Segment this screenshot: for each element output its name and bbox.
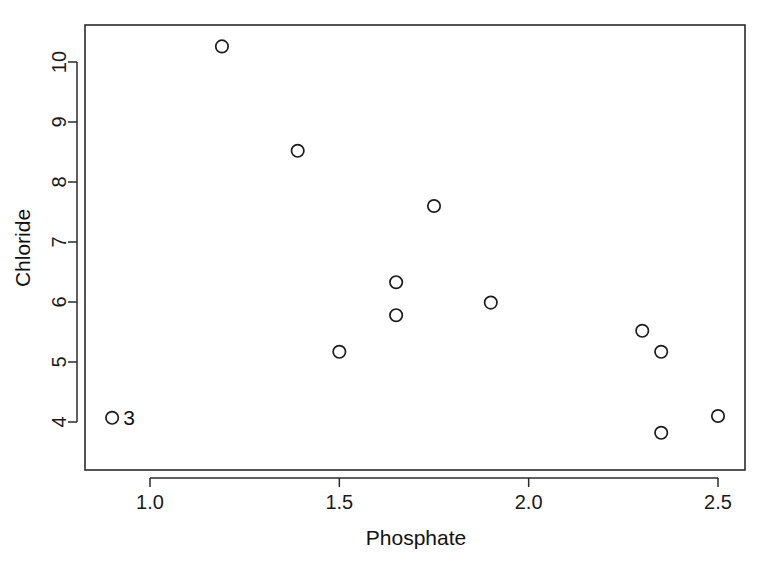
x-axis-title: Phosphate xyxy=(366,526,466,549)
figure-background xyxy=(0,0,767,575)
y-axis-title: Chloride xyxy=(11,209,34,287)
x-tick-label: 1.5 xyxy=(325,491,353,513)
scatter-plot-figure: 45678910 1.01.52.02.5 3 Phosphate Chlori… xyxy=(0,0,767,575)
y-tick-label: 9 xyxy=(48,116,70,127)
y-tick-label: 4 xyxy=(48,416,70,427)
plot-canvas: 45678910 1.01.52.02.5 3 Phosphate Chlori… xyxy=(0,0,767,575)
y-tick-label: 7 xyxy=(48,236,70,247)
x-tick-label: 2.0 xyxy=(515,491,543,513)
y-tick-label: 6 xyxy=(48,296,70,307)
y-tick-label: 10 xyxy=(48,51,70,73)
y-tick-label: 8 xyxy=(48,176,70,187)
x-tick-label: 2.5 xyxy=(704,491,732,513)
x-tick-label: 1.0 xyxy=(136,491,164,513)
y-tick-label: 5 xyxy=(48,356,70,367)
data-point-label: 3 xyxy=(123,406,135,429)
